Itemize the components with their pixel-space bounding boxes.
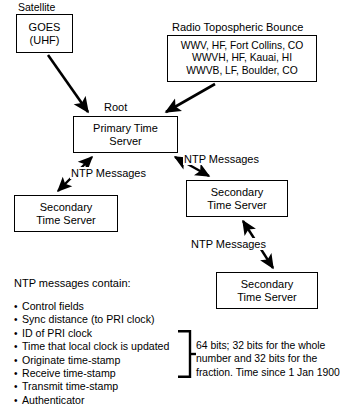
legend-note: 64 bits; 32 bits for the whole number an… <box>196 339 346 379</box>
list-item: Time that local clock is updated <box>14 340 169 353</box>
primary-line-2: Server <box>109 135 141 148</box>
secondary-bottom-line-2: Time Server <box>237 291 297 304</box>
radio-line-1: WWV, HF, Fort Collins, CO <box>181 40 304 52</box>
secondary-left-line-1: Secondary <box>40 201 93 214</box>
primary-line-1: Primary Time <box>93 122 158 135</box>
secondary-mid-line-1: Secondary <box>211 186 264 199</box>
list-item: Originate time-stamp <box>14 354 169 367</box>
legend-list: Control fields Sync distance (to PRI clo… <box>14 300 169 407</box>
ntp-message-legend: NTP messages contain: Control fields Syn… <box>14 277 169 407</box>
caption-radio-topospheric-bounce: Radio Topospheric Bounce <box>172 21 303 33</box>
node-secondary-time-server-bottom[interactable]: Secondary Time Server <box>216 272 318 309</box>
edge-radio-to-primary <box>166 84 215 112</box>
secondary-left-line-2: Time Server <box>36 214 96 227</box>
list-item: Sync distance (to PRI clock) <box>14 313 169 326</box>
list-item: ID of PRI clock <box>14 327 169 340</box>
edge-label-ntp-messages-left: NTP Messages <box>70 167 147 179</box>
list-item: Control fields <box>14 300 169 313</box>
secondary-mid-line-2: Time Server <box>207 199 267 212</box>
node-radio-stations[interactable]: WWV, HF, Fort Collins, CO WWVH, HF, Kaua… <box>167 35 317 82</box>
radio-line-3: WWVB, LF, Boulder, CO <box>186 65 298 77</box>
node-secondary-time-server-middle[interactable]: Secondary Time Server <box>186 180 288 217</box>
secondary-bottom-line-1: Secondary <box>241 278 294 291</box>
list-item: Authenticator <box>14 394 169 407</box>
goes-line-2: (UHF) <box>30 34 60 47</box>
list-item: Receive time-stamp <box>14 367 169 380</box>
edge-goes-to-primary <box>48 55 88 112</box>
goes-line-1: GOES <box>29 21 61 34</box>
caption-root: Root <box>104 101 127 113</box>
edge-label-ntp-messages-middle: NTP Messages <box>183 153 260 165</box>
edge-label-ntp-messages-bottom: NTP Messages <box>190 238 267 250</box>
radio-line-2: WWVH, HF, Kauai, HI <box>192 52 292 64</box>
node-goes-uhf[interactable]: GOES (UHF) <box>16 14 73 53</box>
list-item: Transmit time-stamp <box>14 380 169 393</box>
node-secondary-time-server-left[interactable]: Secondary Time Server <box>14 195 118 232</box>
legend-brace <box>178 330 196 378</box>
ntp-hierarchy-diagram: Satellite GOES (UHF) Radio Topospheric B… <box>0 0 348 413</box>
node-primary-time-server[interactable]: Primary Time Server <box>73 116 178 153</box>
legend-title: NTP messages contain: <box>14 277 169 289</box>
caption-satellite: Satellite <box>18 1 55 13</box>
